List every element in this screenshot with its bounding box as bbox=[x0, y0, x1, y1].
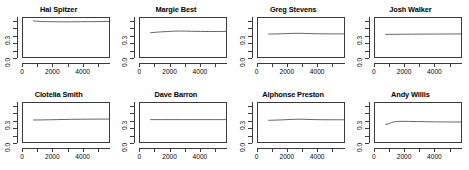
y-axis-tick bbox=[130, 28, 134, 29]
chart-panel: Josh Walker0.00.3020004000 bbox=[352, 0, 469, 85]
y-axis-tick bbox=[248, 136, 252, 137]
x-axis-tick-label: 2000 bbox=[390, 68, 418, 76]
x-axis-tick bbox=[272, 63, 273, 67]
x-axis-tick-label: 0 bbox=[243, 153, 271, 161]
y-axis-tick-label: 0.3 bbox=[356, 35, 363, 44]
y-axis-tick bbox=[365, 58, 369, 59]
data-line bbox=[151, 31, 226, 33]
series-canvas bbox=[375, 103, 462, 143]
y-axis-tick bbox=[248, 128, 252, 129]
x-axis-tick bbox=[404, 148, 405, 152]
y-axis-tick bbox=[130, 128, 134, 129]
chart-panel: Andy Willis0.00.3020004000 bbox=[352, 85, 469, 170]
x-axis-tick bbox=[37, 148, 38, 152]
y-axis-tick-label: 0.0 bbox=[121, 143, 128, 152]
x-axis-tick-label: 4000 bbox=[186, 68, 214, 76]
x-axis-tick bbox=[139, 63, 140, 67]
y-axis-tick bbox=[130, 121, 134, 122]
x-axis-tick-label: 0 bbox=[125, 153, 153, 161]
x-axis-tick-label: 4000 bbox=[69, 68, 97, 76]
chart-panel: Greg Stevens0.00.3020004000 bbox=[235, 0, 352, 85]
x-axis-tick bbox=[302, 148, 303, 152]
x-axis-tick bbox=[22, 148, 23, 152]
y-axis-tick bbox=[130, 58, 134, 59]
panel-title: Clotelia Smith bbox=[0, 90, 117, 99]
data-line bbox=[385, 121, 460, 124]
x-axis-tick bbox=[434, 63, 435, 67]
data-line bbox=[34, 119, 109, 120]
y-axis-tick bbox=[248, 143, 252, 144]
x-axis-tick-label: 2000 bbox=[38, 68, 66, 76]
x-axis-tick bbox=[317, 148, 318, 152]
y-axis-tick-label: 0.0 bbox=[356, 143, 363, 152]
chart-panel: Clotelia Smith0.00.3020004000 bbox=[0, 85, 117, 170]
x-axis-tick-label: 0 bbox=[8, 68, 36, 76]
x-axis-tick bbox=[22, 63, 23, 67]
y-axis-tick bbox=[248, 121, 252, 122]
y-axis-line bbox=[369, 102, 370, 143]
x-axis-line bbox=[22, 148, 110, 149]
y-axis-tick bbox=[130, 43, 134, 44]
x-axis-tick bbox=[185, 148, 186, 152]
y-axis-tick bbox=[365, 113, 369, 114]
y-axis-tick bbox=[13, 143, 17, 144]
chart-panel: Dave Barron0.00.3020004000 bbox=[117, 85, 234, 170]
x-axis-tick-label: 2000 bbox=[390, 153, 418, 161]
chart-panel: Hal Spitzer0.00.3020004000 bbox=[0, 0, 117, 85]
series-canvas bbox=[140, 18, 227, 58]
panel-title: Hal Spitzer bbox=[0, 5, 117, 14]
y-axis-line bbox=[17, 17, 18, 58]
y-axis-tick bbox=[248, 113, 252, 114]
x-axis-tick-label: 4000 bbox=[69, 153, 97, 161]
series-canvas bbox=[258, 103, 345, 143]
x-axis-tick-label: 2000 bbox=[38, 153, 66, 161]
panel-title: Dave Barron bbox=[117, 90, 234, 99]
data-line bbox=[268, 33, 343, 34]
y-axis-tick-label: 0.0 bbox=[4, 143, 11, 152]
x-axis-tick-label: 0 bbox=[360, 153, 388, 161]
x-axis-tick-label: 0 bbox=[243, 68, 271, 76]
x-axis-tick bbox=[215, 63, 216, 67]
y-axis-tick bbox=[248, 106, 252, 107]
x-axis-line bbox=[139, 63, 227, 64]
x-axis-tick bbox=[450, 63, 451, 67]
x-axis-tick-label: 0 bbox=[360, 68, 388, 76]
y-axis-tick bbox=[130, 21, 134, 22]
x-axis-tick bbox=[302, 63, 303, 67]
x-axis-tick-label: 4000 bbox=[303, 68, 331, 76]
x-axis-tick bbox=[272, 148, 273, 152]
x-axis-tick bbox=[68, 63, 69, 67]
plot-area bbox=[374, 17, 462, 58]
y-axis-tick bbox=[13, 43, 17, 44]
y-axis-line bbox=[252, 102, 253, 143]
y-axis-tick bbox=[13, 113, 17, 114]
y-axis-tick bbox=[130, 136, 134, 137]
y-axis-tick-label: 0.3 bbox=[121, 120, 128, 129]
x-axis-tick bbox=[98, 148, 99, 152]
x-axis-tick bbox=[37, 63, 38, 67]
y-axis-tick bbox=[365, 136, 369, 137]
x-axis-tick bbox=[170, 63, 171, 67]
y-axis-tick bbox=[13, 51, 17, 52]
y-axis-tick bbox=[130, 51, 134, 52]
y-axis-tick bbox=[13, 136, 17, 137]
y-axis-tick bbox=[365, 43, 369, 44]
x-axis-tick bbox=[154, 63, 155, 67]
x-axis-tick bbox=[139, 148, 140, 152]
small-multiples-grid: Hal Spitzer0.00.3020004000Margie Best0.0… bbox=[0, 0, 469, 170]
y-axis-tick-label: 0.0 bbox=[4, 58, 11, 67]
x-axis-line bbox=[257, 148, 345, 149]
y-axis-tick bbox=[365, 128, 369, 129]
x-axis-tick bbox=[389, 63, 390, 67]
series-canvas bbox=[258, 18, 345, 58]
y-axis-tick-label: 0.3 bbox=[121, 35, 128, 44]
panel-title: Alphonse Preston bbox=[235, 90, 352, 99]
x-axis-tick-label: 2000 bbox=[156, 68, 184, 76]
y-axis-tick bbox=[13, 21, 17, 22]
x-axis-line bbox=[22, 63, 110, 64]
y-axis-tick bbox=[365, 121, 369, 122]
y-axis-tick bbox=[13, 28, 17, 29]
x-axis-tick-label: 4000 bbox=[420, 68, 448, 76]
x-axis-tick bbox=[52, 148, 53, 152]
y-axis-tick bbox=[365, 28, 369, 29]
